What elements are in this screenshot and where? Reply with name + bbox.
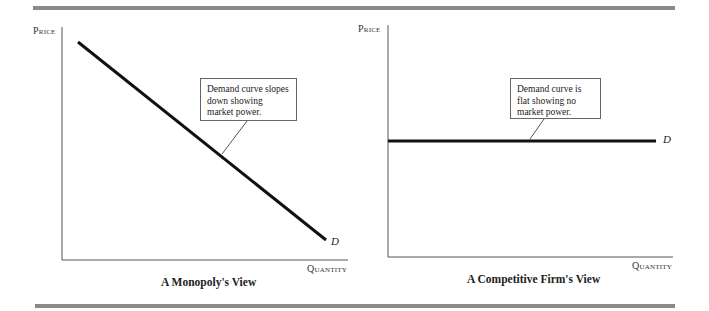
right-chart-title: A Competitive Firm's View [467, 273, 600, 285]
right-price-label: Price [358, 23, 381, 34]
right-quantity-label: Quantity [632, 260, 672, 271]
left-callout-pointer [222, 121, 247, 154]
left-demand-label: D [331, 235, 339, 247]
right-callout: Demand curve is flat showing no market p… [510, 78, 601, 119]
diagram-lines [0, 0, 709, 311]
right-demand-label: D [663, 133, 671, 145]
left-chart-title: A Monopoly's View [161, 276, 256, 288]
left-quantity-label: Quantity [307, 263, 347, 274]
left-callout: Demand curve slopes down showing market … [200, 78, 297, 121]
right-callout-pointer [530, 119, 544, 139]
left-demand-curve [78, 42, 326, 240]
left-price-label: Price [33, 25, 56, 36]
